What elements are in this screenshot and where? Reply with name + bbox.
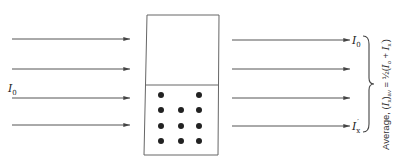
dot <box>158 92 164 98</box>
dot <box>196 138 202 144</box>
transmitted-arrows <box>232 40 350 126</box>
incident-intensity-label: I0 <box>7 82 17 97</box>
dot <box>178 107 184 113</box>
dot <box>196 123 202 129</box>
dot <box>196 107 202 113</box>
average-caption: Average, (Ix)av = ½(Io + Ix′) <box>380 39 392 150</box>
dot <box>158 138 164 144</box>
dot <box>178 123 184 129</box>
curly-brace <box>363 36 374 132</box>
absorber-dots <box>158 92 202 144</box>
absorption-diagram: I0 I0 Ix′ Average, (Ix)av = ½(Io <box>0 0 398 160</box>
average-formula: Average, (Ix)av = ½(Io + Ix′) <box>380 39 392 150</box>
transmitted-top-label: I0 <box>351 34 361 49</box>
sample-box <box>144 15 219 155</box>
transmitted-bottom-label: Ix′ <box>351 118 360 135</box>
dot <box>178 138 184 144</box>
dot <box>158 107 164 113</box>
incident-arrows <box>12 39 130 125</box>
dot <box>158 123 164 129</box>
dot <box>196 92 202 98</box>
